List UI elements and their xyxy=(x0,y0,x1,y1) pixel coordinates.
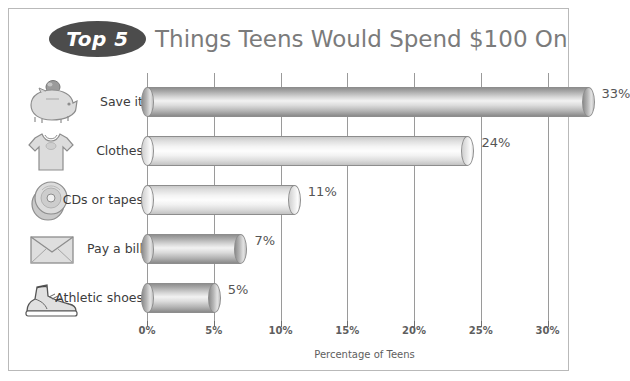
bar-cap-left xyxy=(141,87,154,117)
bar xyxy=(147,136,467,166)
plot-area: 0%5%10%15%20%25%30% Save it33% Clothes24… xyxy=(9,9,570,372)
bar-cap-right xyxy=(288,185,301,215)
category-label: Save it xyxy=(17,79,147,125)
bar-body xyxy=(147,87,588,117)
bar-cap-right xyxy=(208,283,221,313)
bar-value-label: 24% xyxy=(481,128,510,158)
x-axis-tick-label: 0% xyxy=(117,325,177,336)
x-axis-tick-label: 10% xyxy=(251,325,311,336)
x-axis-title-label: Percentage of Teens xyxy=(164,349,415,360)
category-label: Athletic shoes xyxy=(17,275,147,321)
bar-body xyxy=(147,283,214,313)
x-axis-tick-label: 30% xyxy=(518,325,578,336)
bar-cap-right xyxy=(582,87,595,117)
bar-body xyxy=(147,136,467,166)
bar-cap-right xyxy=(234,234,247,264)
x-axis-tick-label: 20% xyxy=(384,325,444,336)
bar-cap-left xyxy=(141,234,154,264)
bar xyxy=(147,283,214,313)
bar-cap-left xyxy=(141,136,154,166)
bar-cap-left xyxy=(141,185,154,215)
bar-body xyxy=(147,185,294,215)
bar-value-label: 7% xyxy=(254,226,275,256)
bar-value-label: 33% xyxy=(602,79,630,109)
category-label: CDs or tapes xyxy=(17,177,147,223)
chart-frame: Top 5 Things Teens Would Spend $100 On 0… xyxy=(8,8,569,371)
bar-cap-left xyxy=(141,283,154,313)
bar-row: Clothes24% xyxy=(9,128,570,174)
bar-row: Athletic shoes5% xyxy=(9,275,570,321)
x-axis-tick-label: 15% xyxy=(317,325,377,336)
x-axis-tick-label: 5% xyxy=(184,325,244,336)
bar-row: CDs or tapes11% xyxy=(9,177,570,223)
bar-body xyxy=(147,234,240,264)
bar xyxy=(147,87,588,117)
bar-row: Save it33% xyxy=(9,79,570,125)
x-axis-title: Percentage of Teens xyxy=(9,349,570,360)
bar-value-label: 11% xyxy=(308,177,337,207)
bar-value-label: 5% xyxy=(228,275,249,305)
category-label: Pay a bill xyxy=(17,226,147,272)
category-label: Clothes xyxy=(17,128,147,174)
bar-row: Pay a bill7% xyxy=(9,226,570,272)
x-axis-tick-label: 25% xyxy=(451,325,511,336)
bar xyxy=(147,185,294,215)
bar xyxy=(147,234,240,264)
bar-cap-right xyxy=(461,136,474,166)
